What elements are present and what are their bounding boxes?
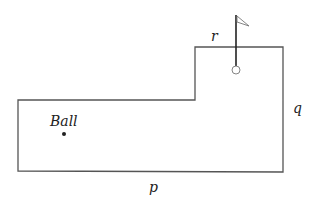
ball-icon <box>62 132 66 136</box>
ball-label: Ball <box>49 113 78 129</box>
flag-icon <box>236 15 249 66</box>
side-label-p: p <box>149 179 158 195</box>
golf-course-diagram: Ball r q p <box>0 0 317 202</box>
side-label-q: q <box>293 100 302 116</box>
side-label-r: r <box>211 28 219 44</box>
course-outline <box>18 47 283 172</box>
hole-icon <box>232 66 240 74</box>
